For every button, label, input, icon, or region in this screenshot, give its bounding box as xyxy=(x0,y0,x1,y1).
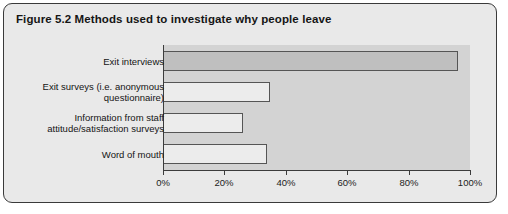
x-tick-mark xyxy=(409,171,410,175)
bar-chart: 0% 20% 40% 60% 80% 100% Exit interviews … xyxy=(4,4,498,204)
category-label-staff-attitude-surveys: Information from staffattitude/satisfact… xyxy=(0,112,164,134)
bar-word-of-mouth xyxy=(163,144,267,164)
x-tick-label: 100% xyxy=(458,177,482,188)
category-label-exit-interviews: Exit interviews xyxy=(0,56,164,67)
bar-staff-attitude-surveys xyxy=(163,113,243,133)
category-label-word-of-mouth: Word of mouth xyxy=(0,149,164,160)
x-tick-label: 20% xyxy=(214,177,233,188)
x-tick-mark xyxy=(224,171,225,175)
bar-exit-interviews xyxy=(163,51,458,71)
x-tick-mark xyxy=(470,171,471,175)
x-tick-label: 0% xyxy=(156,177,170,188)
x-tick-mark xyxy=(347,171,348,175)
x-tick-mark xyxy=(286,171,287,175)
x-tick-label: 60% xyxy=(337,177,356,188)
x-tick-label: 80% xyxy=(399,177,418,188)
x-axis-line xyxy=(163,170,471,171)
x-tick-label: 40% xyxy=(276,177,295,188)
figure-frame: Figure 5.2 Methods used to investigate w… xyxy=(3,3,497,203)
bar-exit-surveys xyxy=(163,82,270,102)
category-label-exit-surveys: Exit surveys (i.e. anonymousquestionnair… xyxy=(0,81,164,103)
x-tick-mark xyxy=(163,171,164,175)
